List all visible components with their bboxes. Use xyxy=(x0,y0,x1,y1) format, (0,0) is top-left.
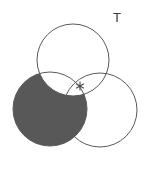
venn-diagram-svg xyxy=(0,0,150,177)
venn-diagram-canvas: T xyxy=(0,0,150,177)
universe-set-label: T xyxy=(113,11,121,24)
shaded-region-left-minus-top xyxy=(0,0,150,177)
